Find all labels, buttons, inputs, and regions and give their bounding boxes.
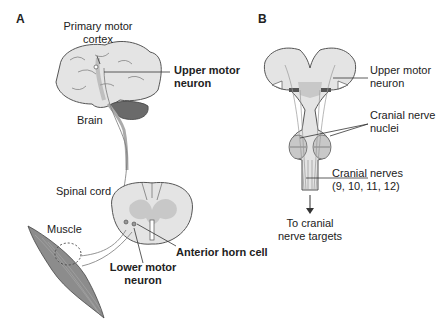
label-cranial-nerves: Cranial nerves (9, 10, 11, 12) bbox=[332, 167, 403, 193]
panel-letter-b: B bbox=[258, 12, 267, 26]
label-muscle: Muscle bbox=[47, 223, 82, 236]
label-lower-motor-neuron: Lower motor neuron bbox=[108, 261, 178, 287]
label-cranial-nerve-nuclei: Cranial nerve nuclei bbox=[370, 109, 435, 135]
label-line: Primary motor bbox=[58, 20, 138, 33]
label-brain: Brain bbox=[77, 114, 103, 127]
label-line: (9, 10, 11, 12) bbox=[332, 180, 403, 193]
label-to-cranial-nerve-targets: To cranial nerve targets bbox=[270, 217, 350, 243]
label-line: neuron bbox=[174, 77, 240, 90]
diagram-artwork bbox=[0, 0, 448, 330]
label-line: Cranial nerves bbox=[332, 167, 403, 180]
label-line: cortex bbox=[58, 33, 138, 46]
label-line: nerve targets bbox=[270, 230, 350, 243]
label-upper-motor-neuron-a: Upper motor neuron bbox=[174, 64, 240, 90]
label-upper-motor-neuron-b: Upper motor neuron bbox=[370, 64, 431, 90]
panel-letter-a: A bbox=[16, 12, 25, 26]
brain-illustration bbox=[56, 41, 161, 195]
label-line: neuron bbox=[108, 274, 178, 287]
label-line: Lower motor bbox=[108, 261, 178, 274]
label-line: Upper motor bbox=[174, 64, 240, 77]
label-line: To cranial bbox=[270, 217, 350, 230]
label-spinal-cord: Spinal cord bbox=[56, 185, 111, 198]
label-line: nuclei bbox=[370, 122, 435, 135]
label-line: Cranial nerve bbox=[370, 109, 435, 122]
label-line: Upper motor bbox=[370, 64, 431, 77]
label-line: neuron bbox=[370, 77, 431, 90]
label-primary-motor-cortex: Primary motor cortex bbox=[58, 20, 138, 46]
spinal-cord-illustration bbox=[112, 182, 193, 244]
label-anterior-horn-cell: Anterior horn cell bbox=[176, 246, 268, 259]
